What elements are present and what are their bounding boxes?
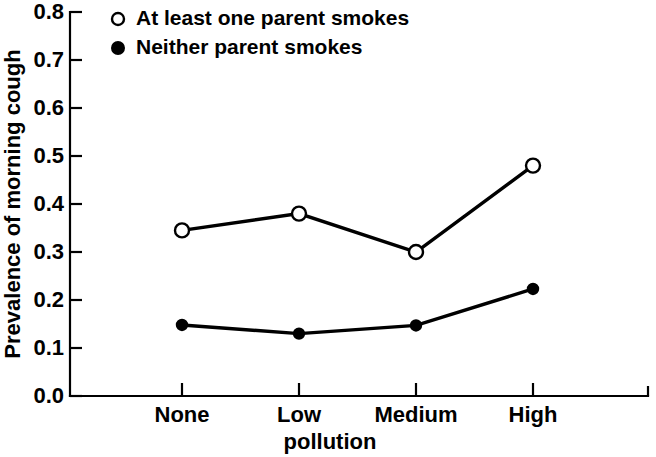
data-point-none xyxy=(177,320,187,330)
y-tick-label-0.6: 0.6 xyxy=(33,95,64,120)
x-tick-label-medium: Medium xyxy=(374,402,457,427)
legend-item-label-1: Neither parent smokes xyxy=(136,35,362,58)
y-tick-label-0.0: 0.0 xyxy=(33,383,64,408)
y-axis-title: Prevalence of morning cough xyxy=(0,49,25,358)
y-tick-label-0.5: 0.5 xyxy=(33,143,64,168)
legend-filled-circle-icon xyxy=(112,42,124,54)
y-tick-label-0.7: 0.7 xyxy=(33,47,64,72)
y-tick-label-0.2: 0.2 xyxy=(33,287,64,312)
y-tick-label-0.3: 0.3 xyxy=(33,239,64,264)
x-axis-title: pollution xyxy=(284,429,377,454)
chart-background xyxy=(0,0,656,457)
legend-item-label-0: At least one parent smokes xyxy=(136,6,409,29)
x-tick-label-high: High xyxy=(509,402,558,427)
x-tick-label-low: Low xyxy=(277,402,322,427)
y-tick-label-0.4: 0.4 xyxy=(33,191,64,216)
data-point-none xyxy=(175,223,189,237)
data-point-medium xyxy=(411,320,421,330)
data-point-low xyxy=(292,207,306,221)
data-point-high xyxy=(528,284,538,294)
y-tick-label-0.1: 0.1 xyxy=(33,335,64,360)
y-tick-label-0.8: 0.8 xyxy=(33,0,64,24)
data-point-high xyxy=(526,159,540,173)
data-point-medium xyxy=(409,245,423,259)
line-chart: 0.8 0.7 0.6 0.5 0.4 0.3 0.2 0.1 0.0 Prev… xyxy=(0,0,656,457)
x-tick-label-none: None xyxy=(155,402,210,427)
legend-open-circle-icon xyxy=(112,13,124,25)
data-point-low xyxy=(294,328,304,338)
chart-figure: 0.8 0.7 0.6 0.5 0.4 0.3 0.2 0.1 0.0 Prev… xyxy=(0,0,656,457)
